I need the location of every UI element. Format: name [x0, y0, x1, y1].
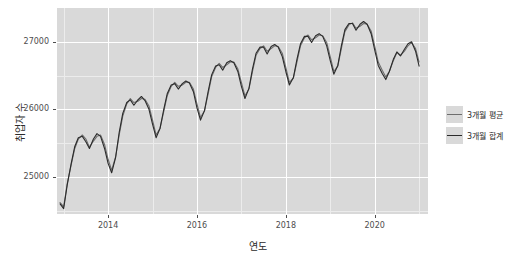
legend-label: 3개월 평균	[467, 109, 503, 120]
y-tick-mark	[53, 109, 56, 110]
y-tick-mark	[53, 42, 56, 43]
legend: 3개월 평균 3개월 합계	[446, 106, 503, 148]
x-tick-label: 2020	[355, 221, 395, 230]
y-tick-mark	[53, 177, 56, 178]
x-axis-title: 연도	[0, 238, 516, 253]
x-tick-mark	[197, 215, 198, 218]
series-lines	[0, 0, 516, 262]
y-axis-title: 취업자 수	[12, 103, 27, 142]
legend-item[interactable]: 3개월 평균	[446, 106, 503, 123]
y-tick-label: 27000	[15, 37, 49, 46]
x-tick-label: 2018	[266, 221, 306, 230]
x-tick-mark	[375, 215, 376, 218]
x-tick-mark	[286, 215, 287, 218]
legend-key-total	[446, 127, 463, 144]
x-tick-label: 2016	[177, 221, 217, 230]
series-line	[60, 22, 419, 209]
legend-line-icon	[447, 114, 462, 115]
legend-item[interactable]: 3개월 합계	[446, 127, 503, 144]
legend-label: 3개월 합계	[467, 130, 503, 141]
legend-key-average	[446, 106, 463, 123]
y-tick-label: 25000	[15, 172, 49, 181]
x-tick-label: 2014	[88, 221, 128, 230]
series-line	[60, 23, 419, 207]
x-tick-mark	[108, 215, 109, 218]
legend-line-icon	[447, 135, 462, 136]
chart-root: 250002600027000 2014201620182020 취업자 수 연…	[0, 0, 516, 262]
